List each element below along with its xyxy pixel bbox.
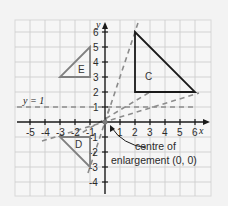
annotation-line-2: enlargement (0, 0) [111,154,197,166]
triangle-c-label: C [145,71,152,82]
x-tick-label: 5 [177,127,183,138]
y-tick-label: 3 [93,72,99,83]
x-tick-label: 1 [117,127,123,138]
x-axis-label: x [198,125,204,136]
centre-of-enlargement-point [103,120,108,125]
coordinate-grid: -5 -4 -3 -2 -1 1 2 3 4 5 6 6 5 4 3 2 1 -… [0,0,228,206]
triangle-e-label: E [78,64,85,75]
x-tick-label: 3 [147,127,153,138]
x-tick-label: -5 [26,127,35,138]
x-tick-label: 6 [192,127,198,138]
y-tick-label: 5 [93,42,99,53]
x-tick-label: 4 [162,127,168,138]
triangle-d-label: D [75,139,82,150]
annotation-line-1: centre of [135,140,176,152]
x-tick-label: -4 [41,127,50,138]
y-tick-label: 1 [93,102,99,113]
y-tick-label: -4 [89,177,98,188]
enlargement-diagram: -5 -4 -3 -2 -1 1 2 3 4 5 6 6 5 4 3 2 1 -… [0,0,228,206]
line-y-equals-1-label: y = 1 [22,95,44,106]
x-tick-label: 2 [132,127,138,138]
y-axis-label: y [95,19,101,30]
grid-panel [15,20,211,196]
y-tick-label: 2 [93,87,99,98]
y-tick-label: 4 [93,57,99,68]
